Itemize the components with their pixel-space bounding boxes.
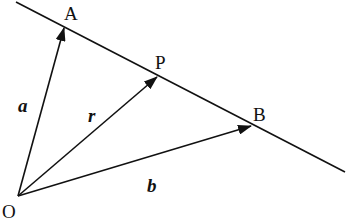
- point-label-b: B: [253, 104, 266, 125]
- point-label-a: A: [64, 3, 78, 24]
- vector-b-arrow: [18, 126, 251, 196]
- vector-r-arrow: [18, 77, 157, 196]
- point-label-o: O: [2, 201, 16, 220]
- point-label-p: P: [155, 52, 166, 73]
- vector-label-b: b: [147, 175, 157, 196]
- vector-line-diagram: A P B O a r b: [0, 0, 349, 220]
- vector-label-r: r: [88, 105, 96, 126]
- vector-label-a: a: [18, 95, 28, 116]
